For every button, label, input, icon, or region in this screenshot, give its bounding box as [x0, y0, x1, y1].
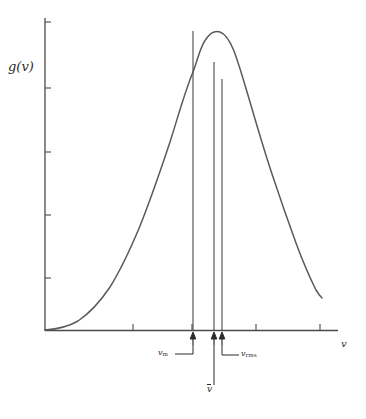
marker-label-vbar: v: [207, 385, 212, 394]
marker-arrows: [190, 332, 225, 345]
distribution-curve: [45, 31, 322, 330]
arrow-vbar: [211, 332, 217, 345]
plot-canvas: [0, 0, 366, 419]
leader-vrms: [222, 345, 239, 355]
x-axis-label: v: [341, 339, 347, 349]
y-axis-ticks: [45, 22, 51, 278]
arrow-vrms: [219, 332, 225, 345]
marker-label-vrms-subscript: rms: [246, 352, 257, 358]
x-axis-label-text: v: [341, 338, 347, 349]
marker-label-vm: vm: [158, 349, 168, 358]
leader-lines: [175, 345, 239, 385]
x-axis-ticks: [133, 324, 320, 330]
marker-lines: [193, 31, 222, 330]
distribution-figure: g(v) v vm vrms v: [0, 0, 366, 419]
leader-vm: [175, 345, 193, 354]
marker-label-vm-subscript: m: [163, 351, 168, 357]
marker-label-vbar-symbol: v: [207, 385, 212, 394]
marker-label-vrms: vrms: [241, 350, 257, 359]
y-axis-label-text: g(v): [8, 59, 34, 74]
arrow-vm: [190, 332, 196, 345]
y-axis-label: g(v): [8, 60, 34, 73]
